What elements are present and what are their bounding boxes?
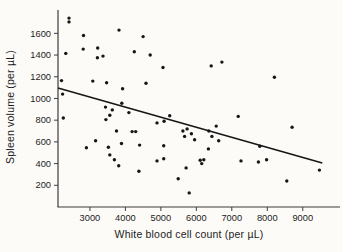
- data-point: [215, 124, 218, 127]
- data-point: [220, 60, 223, 63]
- data-point: [104, 105, 107, 108]
- data-point: [64, 52, 67, 55]
- regression-line: [58, 88, 322, 163]
- data-point: [155, 159, 158, 162]
- data-point: [190, 132, 193, 135]
- data-point: [108, 114, 111, 117]
- data-point: [113, 158, 116, 161]
- data-point: [290, 126, 293, 129]
- data-point: [67, 20, 70, 23]
- data-point: [210, 135, 213, 138]
- scatter-figure: 2004006008001000120014001600300040005000…: [0, 0, 343, 252]
- data-point: [96, 46, 99, 49]
- data-point: [96, 56, 99, 59]
- data-point: [121, 87, 124, 90]
- data-point: [210, 64, 213, 67]
- data-point: [144, 82, 147, 85]
- y-tick-label: 200: [35, 180, 51, 190]
- data-point: [155, 121, 158, 124]
- x-tick-label: 4000: [115, 213, 136, 223]
- data-point: [134, 130, 137, 133]
- x-tick-label: 9000: [292, 213, 313, 223]
- y-tick-label: 400: [35, 159, 51, 169]
- x-tick-label: 3000: [80, 213, 101, 223]
- data-point: [162, 120, 165, 123]
- data-point: [120, 142, 123, 145]
- data-point: [239, 159, 242, 162]
- data-point: [193, 138, 196, 141]
- data-point: [141, 35, 144, 38]
- data-point: [202, 158, 205, 161]
- data-point: [273, 76, 276, 79]
- data-point: [188, 191, 191, 194]
- x-tick-label: 6000: [186, 213, 207, 223]
- data-point: [130, 130, 133, 133]
- scatter-plot-canvas: 2004006008001000120014001600300040005000…: [0, 0, 343, 252]
- data-point: [138, 143, 141, 146]
- data-point: [185, 127, 188, 130]
- data-point: [207, 147, 210, 150]
- data-point: [82, 34, 85, 37]
- data-point: [162, 157, 165, 160]
- data-point: [200, 162, 203, 165]
- data-point: [105, 81, 108, 84]
- data-point: [108, 153, 111, 156]
- data-point: [181, 129, 184, 132]
- data-point: [127, 111, 130, 114]
- data-point: [117, 28, 120, 31]
- data-point: [115, 129, 118, 132]
- data-point: [120, 102, 123, 105]
- data-point: [137, 170, 140, 173]
- data-point: [62, 116, 65, 119]
- data-point: [184, 166, 187, 169]
- data-point: [107, 146, 110, 149]
- data-point: [111, 108, 114, 111]
- data-point: [117, 164, 120, 167]
- x-axis-title: White blood cell count (per µL): [48, 228, 330, 240]
- x-tick-label: 5000: [151, 213, 172, 223]
- data-point: [168, 114, 171, 117]
- data-point: [91, 79, 94, 82]
- data-point: [257, 160, 260, 163]
- data-point: [217, 139, 220, 142]
- y-tick-label: 1000: [30, 94, 51, 104]
- data-point: [67, 16, 70, 19]
- data-point: [101, 54, 104, 57]
- data-point: [94, 139, 97, 142]
- data-point: [162, 144, 165, 147]
- data-point: [161, 66, 164, 69]
- data-point: [149, 53, 152, 56]
- y-tick-label: 800: [35, 115, 51, 125]
- data-point: [85, 146, 88, 149]
- data-point: [82, 47, 85, 50]
- data-point: [237, 115, 240, 118]
- y-tick-label: 1600: [30, 29, 51, 39]
- y-tick-label: 1400: [30, 50, 51, 60]
- data-point: [265, 158, 268, 161]
- data-point: [133, 50, 136, 53]
- data-point: [104, 118, 107, 121]
- data-point: [318, 168, 321, 171]
- x-tick-label: 8000: [257, 213, 278, 223]
- data-point: [183, 135, 186, 138]
- data-point: [199, 159, 202, 162]
- y-axis-title: Spleen volume (per µL): [4, 0, 18, 217]
- y-tick-label: 1200: [30, 72, 51, 82]
- y-tick-label: 600: [35, 137, 51, 147]
- data-point: [61, 92, 64, 95]
- data-point: [60, 79, 63, 82]
- data-point: [285, 179, 288, 182]
- data-point: [177, 177, 180, 180]
- x-tick-label: 7000: [221, 213, 242, 223]
